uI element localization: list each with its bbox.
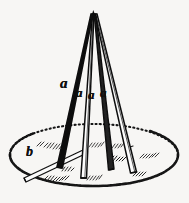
hatch-cluster-center-upper bbox=[89, 142, 104, 147]
base-circle-right-shoulder bbox=[150, 131, 178, 155]
pole-center-right-foot bbox=[109, 169, 115, 170]
hatch-cluster-center-right bbox=[112, 143, 124, 148]
base-circle-left-shoulder bbox=[10, 133, 34, 155]
base-radius-line-group bbox=[24, 150, 85, 182]
pole-right-foot bbox=[131, 172, 137, 173]
hatch-cluster-left-foot bbox=[62, 167, 74, 171]
conical-frame-diagram bbox=[0, 0, 189, 203]
base-radius-rod bbox=[24, 150, 85, 182]
hatch-cluster-far-right bbox=[140, 153, 159, 158]
ground-hatching-group bbox=[37, 142, 159, 181]
hatch-cluster-under-b bbox=[44, 176, 69, 181]
pole-left-foot bbox=[57, 167, 63, 168]
base-circle-front-arc bbox=[10, 155, 178, 186]
pole-center-right bbox=[94, 14, 114, 170]
hatch-cluster-left bbox=[37, 142, 63, 149]
hatch-cluster-center bbox=[87, 175, 102, 180]
base-circle-rear-arc bbox=[10, 124, 178, 155]
pole-center-right-body bbox=[94, 14, 114, 170]
figure-container: a a a a b bbox=[0, 0, 189, 203]
